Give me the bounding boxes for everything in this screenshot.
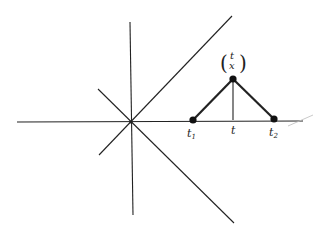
t2-label: t2 xyxy=(269,126,278,140)
t2-point xyxy=(270,115,277,122)
hat-function-diagram: t1 t t2 ( t x ) xyxy=(0,0,318,235)
diagonal-down-right xyxy=(98,89,234,223)
peak-paren-right: ) xyxy=(239,51,247,75)
t1-point xyxy=(189,116,196,123)
peak-paren-left: ( xyxy=(220,51,228,75)
hat-left-edge xyxy=(193,79,233,120)
t1-label: t1 xyxy=(187,127,196,141)
diagonal-up-right xyxy=(99,16,232,155)
peak-point xyxy=(229,75,236,82)
t-label: t xyxy=(231,124,236,137)
peak-x-label: x xyxy=(229,60,235,71)
origin-point xyxy=(129,120,132,123)
hat-right-edge xyxy=(233,79,274,119)
horizontal-axis xyxy=(17,121,303,122)
vertical-axis xyxy=(130,22,133,215)
